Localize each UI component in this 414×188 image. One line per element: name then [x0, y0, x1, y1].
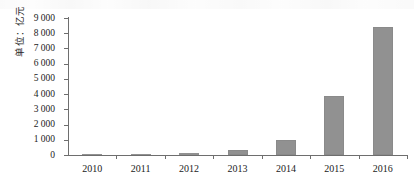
y-tick-label: 9 000 [15, 14, 55, 24]
bar-chart-figure: 单位：亿元 01 0002 0003 0004 0005 0006 0007 0… [0, 0, 414, 188]
y-tick-label: 0 [15, 151, 55, 161]
plot-area: 01 0002 0003 0004 0005 0006 0007 0008 00… [68, 18, 407, 155]
x-tick-label: 2014 [262, 163, 310, 174]
y-tick [64, 33, 68, 34]
x-tick [310, 155, 311, 159]
x-tick [116, 155, 117, 159]
x-tick-label: 2012 [165, 163, 213, 174]
x-tick [359, 155, 360, 159]
y-tick-label: 5 000 [15, 74, 55, 84]
y-tick [64, 140, 68, 141]
bar-2015 [324, 96, 344, 155]
y-tick-label: 1 000 [15, 135, 55, 145]
y-tick [64, 94, 68, 95]
bar-2014 [276, 140, 296, 155]
y-tick-label: 6 000 [15, 59, 55, 69]
x-tick [213, 155, 214, 159]
bar-2011 [131, 154, 151, 156]
x-tick-label: 2013 [213, 163, 261, 174]
bar-2013 [228, 150, 248, 155]
bar-2010 [82, 154, 102, 156]
y-tick-label: 7 000 [15, 44, 55, 54]
bar-2016 [373, 27, 393, 155]
bar-2012 [179, 153, 199, 155]
y-tick [64, 18, 68, 19]
y-tick-label: 2 000 [15, 120, 55, 130]
x-tick-label: 2011 [116, 163, 164, 174]
x-tick [262, 155, 263, 159]
y-tick [64, 125, 68, 126]
x-tick [407, 155, 408, 159]
y-tick-label: 4 000 [15, 90, 55, 100]
x-axis-line [68, 155, 407, 156]
scan-artifact [0, 0, 414, 9]
y-tick [64, 109, 68, 110]
y-tick-label: 8 000 [15, 29, 55, 39]
y-tick [64, 79, 68, 80]
y-tick-label: 3 000 [15, 105, 55, 115]
x-tick-label: 2015 [310, 163, 358, 174]
y-tick [64, 64, 68, 65]
x-tick [165, 155, 166, 159]
y-tick [64, 155, 68, 156]
x-tick-label: 2016 [359, 163, 407, 174]
y-tick [64, 48, 68, 49]
x-tick-label: 2010 [68, 163, 116, 174]
